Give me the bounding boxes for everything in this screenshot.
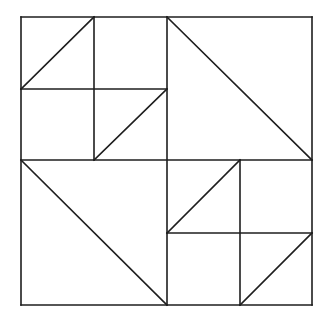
quilt-block-diagram (0, 0, 328, 322)
background (0, 0, 328, 322)
